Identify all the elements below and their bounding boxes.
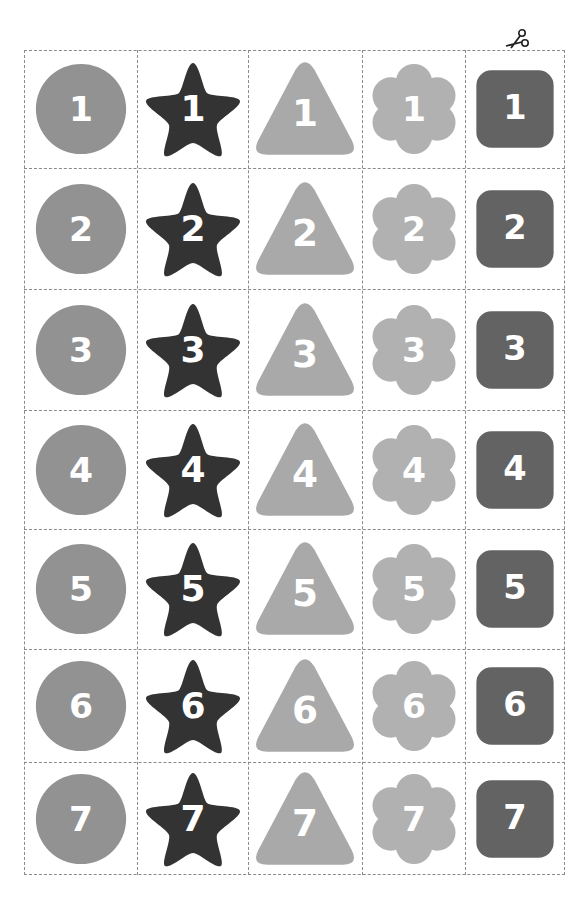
card-number: 6 [292,687,318,731]
flower-shape-icon: 6 [366,658,462,754]
flower-shape-icon: 7 [366,771,462,867]
cutout-card-flower-4: 4 [362,410,465,529]
card-number: 3 [401,329,425,369]
card-number: 4 [292,451,318,495]
cutout-card-circle-4: 4 [24,410,137,529]
star-shape-icon: 1 [143,59,243,159]
cutout-card-triangle-7: 7 [248,762,362,875]
card-number: 5 [180,568,205,609]
card-number: 6 [180,685,205,726]
triangle-shape-icon: 1 [253,57,357,161]
card-number: 6 [68,685,92,725]
card-number: 4 [68,449,92,489]
rounded-square-shape-icon: 7 [473,777,557,861]
triangle-shape-icon: 4 [253,418,357,522]
star-shape-icon: 7 [143,769,243,869]
flower-shape-icon: 1 [366,61,462,157]
cutout-card-flower-2: 2 [362,168,465,289]
card-number: 7 [401,798,425,838]
card-number: 4 [180,449,205,490]
cutout-card-star-3: 3 [137,289,248,410]
star-shape-icon: 6 [143,656,243,756]
star-shape-icon: 3 [143,300,243,400]
card-number: 2 [292,210,318,254]
card-number: 7 [292,800,318,844]
cutout-card-circle-1: 1 [24,50,137,168]
card-number: 6 [503,685,526,724]
circle-shape-icon: 6 [33,658,129,754]
star-shape-icon: 2 [143,179,243,279]
cutout-card-triangle-4: 4 [248,410,362,529]
flower-shape-icon: 2 [366,181,462,277]
card-number: 5 [503,568,526,607]
rounded-square-shape-icon: 4 [473,428,557,512]
triangle-shape-icon: 3 [253,298,357,402]
cutout-card-rounded-square-6: 6 [465,649,565,762]
card-number: 2 [401,208,425,248]
cutout-card-triangle-6: 6 [248,649,362,762]
triangle-shape-icon: 5 [253,537,357,641]
cutout-card-star-6: 6 [137,649,248,762]
cutout-card-triangle-2: 2 [248,168,362,289]
card-number: 3 [180,329,205,370]
cutout-card-star-7: 7 [137,762,248,875]
card-number: 1 [68,89,92,129]
card-number: 2 [503,208,526,247]
card-number: 7 [503,798,526,837]
cutout-card-star-5: 5 [137,529,248,649]
card-number: 2 [180,208,205,249]
cutout-card-circle-2: 2 [24,168,137,289]
cutout-card-circle-3: 3 [24,289,137,410]
card-number: 3 [503,329,526,368]
cutout-card-flower-1: 1 [362,50,465,168]
cutout-card-star-1: 1 [137,50,248,168]
card-number: 1 [401,89,425,129]
rounded-square-shape-icon: 2 [473,187,557,271]
card-number: 5 [292,571,318,615]
cutout-card-star-2: 2 [137,168,248,289]
circle-shape-icon: 5 [33,541,129,637]
triangle-shape-icon: 6 [253,654,357,758]
card-number: 5 [401,569,425,609]
card-number: 6 [401,685,425,725]
card-number: 3 [292,331,318,375]
circle-shape-icon: 3 [33,302,129,398]
cutout-card-triangle-3: 3 [248,289,362,410]
card-number: 5 [68,569,92,609]
cutout-card-flower-3: 3 [362,289,465,410]
card-number: 1 [503,88,526,127]
triangle-shape-icon: 7 [253,767,357,871]
flower-shape-icon: 4 [366,422,462,518]
rounded-square-shape-icon: 3 [473,308,557,392]
rounded-square-shape-icon: 6 [473,664,557,748]
rounded-square-shape-icon: 1 [473,67,557,151]
cutout-card-rounded-square-3: 3 [465,289,565,410]
cutout-card-star-4: 4 [137,410,248,529]
cutout-card-triangle-5: 5 [248,529,362,649]
cutout-card-rounded-square-4: 4 [465,410,565,529]
cutout-card-flower-7: 7 [362,762,465,875]
card-number: 3 [68,329,92,369]
card-number: 4 [503,449,526,488]
cutout-card-flower-5: 5 [362,529,465,649]
card-number: 4 [401,449,425,489]
cutout-card-circle-5: 5 [24,529,137,649]
card-number: 1 [180,88,205,129]
circle-shape-icon: 2 [33,181,129,277]
card-number: 7 [180,798,205,839]
cutout-card-rounded-square-1: 1 [465,50,565,168]
cutout-card-circle-7: 7 [24,762,137,875]
flower-shape-icon: 3 [366,302,462,398]
cutout-card-rounded-square-2: 2 [465,168,565,289]
circle-shape-icon: 4 [33,422,129,518]
cutout-card-rounded-square-7: 7 [465,762,565,875]
cutout-card-circle-6: 6 [24,649,137,762]
cutout-card-rounded-square-5: 5 [465,529,565,649]
circle-shape-icon: 7 [33,771,129,867]
card-number: 7 [68,798,92,838]
rounded-square-shape-icon: 5 [473,547,557,631]
card-number: 2 [68,208,92,248]
star-shape-icon: 4 [143,420,243,520]
star-shape-icon: 5 [143,539,243,639]
cutout-card-triangle-1: 1 [248,50,362,168]
